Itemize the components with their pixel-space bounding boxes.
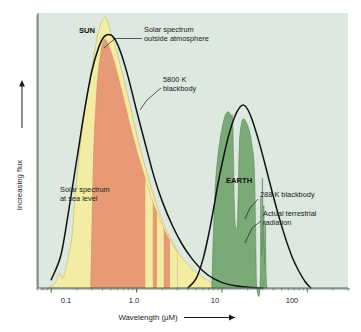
x-tick-label-1: 1.0 <box>129 296 140 305</box>
annotation-solar-outside-line2: outside atmosphere <box>144 34 209 43</box>
annotation-blackbody-288: 288 K blackbody <box>260 190 315 199</box>
annotation-solar-sea-line2: at sea level <box>60 194 98 203</box>
y-axis-title: Increasing flux <box>15 160 24 210</box>
radiation-spectrum-figure: 0.1 1.0 10 100 Wavelength (μM) Increasin… <box>0 0 361 332</box>
annotation-blackbody-5800-line2: blackbody <box>163 84 197 93</box>
annotation-blackbody-5800-line1: 5800 K <box>163 75 186 84</box>
annotation-terrestrial-line1: Actual terrestrial <box>263 209 317 218</box>
annotation-solar-sea-line1: Solar spectrum <box>60 185 110 194</box>
annotation-sun: SUN <box>79 26 95 35</box>
x-tick-label-3: 100 <box>286 296 299 305</box>
x-tick-label-2: 10 <box>211 296 219 305</box>
annotation-solar-outside-line1: Solar spectrum <box>144 25 194 34</box>
x-tick-label-0: 0.1 <box>61 296 72 305</box>
annotation-terrestrial-line2: radiation <box>263 218 291 227</box>
annotation-earth: EARTH <box>226 176 252 185</box>
x-axis-title: Wavelength (μM) <box>118 313 178 322</box>
